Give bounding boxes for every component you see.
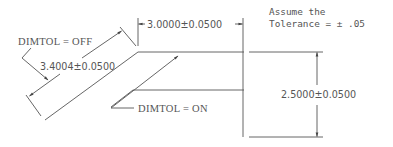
aligned-extension-bottom [26, 95, 41, 116]
dimtol-on-callout: DIMTOL = ON [111, 56, 208, 114]
tolerance-note: Assume the Tolerance = ± .05 [269, 6, 365, 29]
note-line-2: Tolerance = ± .05 [269, 18, 365, 29]
note-line-1: Assume the [269, 6, 326, 17]
aligned-extension-top [120, 27, 136, 46]
leader-on [111, 56, 178, 108]
dimtol-off-callout: DIMTOL = OFF [18, 36, 92, 80]
inner-slanted-edge [111, 90, 133, 107]
drawing-canvas: 3.0000±0.0500 2.5000±0.0500 3.4004±0.050… [0, 0, 393, 147]
dimtol-on-label: DIMTOL = ON [138, 103, 208, 114]
dim-horizontal-text: 3.0000±0.0500 [147, 19, 222, 30]
dimtol-off-label: DIMTOL = OFF [18, 36, 92, 47]
dimtol-drawing: 3.0000±0.0500 2.5000±0.0500 3.4004±0.050… [0, 0, 393, 147]
dim-diagonal-text: 3.4004±0.0500 [40, 61, 115, 72]
dim-vertical-text: 2.5000±0.0500 [281, 89, 356, 100]
vertical-dimension: 2.5000±0.0500 [281, 53, 356, 137]
horizontal-dimension: 3.0000±0.0500 [139, 19, 243, 30]
